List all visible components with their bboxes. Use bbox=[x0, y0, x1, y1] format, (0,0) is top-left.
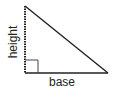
base-label: base bbox=[49, 75, 75, 89]
height-label: height bbox=[6, 25, 20, 58]
triangle-diagram: height base bbox=[0, 0, 113, 91]
hypotenuse bbox=[25, 6, 108, 73]
right-angle-marker bbox=[25, 60, 38, 73]
